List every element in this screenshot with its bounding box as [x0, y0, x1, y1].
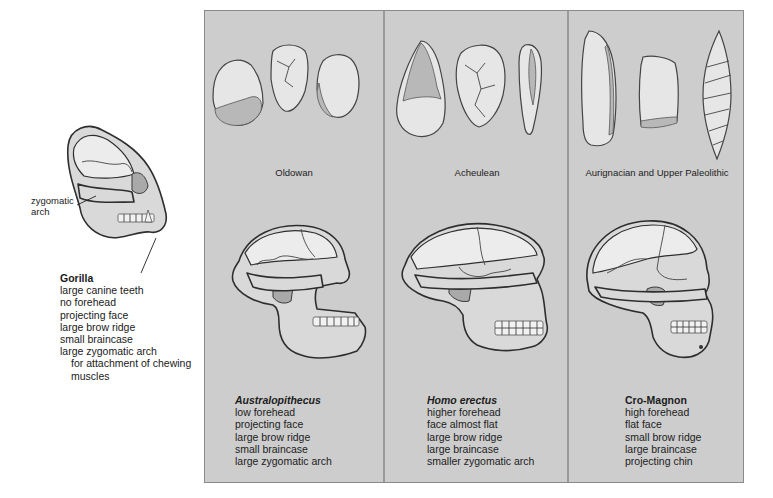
species-trait: small braincase [235, 443, 332, 455]
tool-period-label: Aurignacian and Upper Paleolithic [569, 167, 745, 178]
column-australopithecus: Oldowan Australopithecus low forehead pr… [205, 11, 383, 482]
species-trait: large brow ridge [427, 431, 534, 443]
gorilla-trait: small braincase [60, 333, 191, 345]
species-trait: large zygomatic arch [235, 455, 332, 467]
cro-magnon-description: Cro-Magnon high forehead flat face small… [625, 394, 701, 467]
species-trait: small brow ridge [625, 431, 701, 443]
species-trait: flat face [625, 418, 701, 430]
tool-period-label: Acheulean [385, 167, 569, 178]
gorilla-description: Gorilla large canine teeth no forehead p… [60, 272, 191, 382]
gorilla-title: Gorilla [60, 272, 191, 284]
species-name: Australopithecus [235, 394, 332, 406]
gorilla-trait: large brow ridge [60, 321, 191, 333]
species-name: Cro-Magnon [625, 394, 701, 406]
species-trait: higher forehead [427, 406, 534, 418]
homo-erectus-skull-illustration [391, 209, 561, 369]
homo-erectus-description: Homo erectus higher forehead face almost… [427, 394, 534, 467]
australopithecus-description: Australopithecus low forehead projecting… [235, 394, 332, 467]
comparison-panel: Oldowan Australopithecus low forehead pr… [204, 10, 744, 483]
species-trait: projecting face [235, 418, 332, 430]
species-trait: large brow ridge [235, 431, 332, 443]
tool-period-label: Oldowan [205, 167, 383, 178]
gorilla-trait: no forehead [60, 296, 191, 308]
gorilla-trait: large canine teeth [60, 284, 191, 296]
species-trait: face almost flat [427, 418, 534, 430]
gorilla-trait-note: for attachment of chewing [60, 357, 191, 369]
gorilla-trait-note: muscles [60, 370, 191, 382]
column-homo-erectus: Acheulean Homo erectus higher forehead f… [383, 11, 569, 482]
species-trait: large braincase [427, 443, 534, 455]
species-trait: projecting chin [625, 455, 701, 467]
aurignacian-tools-illustration [569, 17, 745, 163]
species-trait: smaller zygomatic arch [427, 455, 534, 467]
species-trait: large braincase [625, 443, 701, 455]
species-name: Homo erectus [427, 394, 534, 406]
column-cro-magnon: Aurignacian and Upper Paleolithic Cro-Ma… [567, 11, 745, 482]
australopithecus-skull-illustration [217, 209, 377, 369]
zygomatic-arch-label: zygomatic arch [31, 195, 74, 217]
cro-magnon-skull-illustration [577, 209, 737, 369]
oldowan-tools-illustration [205, 31, 383, 161]
gorilla-trait: projecting face [60, 309, 191, 321]
gorilla-skull-illustration [60, 118, 180, 253]
species-trait: high forehead [625, 406, 701, 418]
acheulean-tools-illustration [385, 25, 569, 161]
gorilla-trait: large zygomatic arch [60, 345, 191, 357]
species-trait: low forehead [235, 406, 332, 418]
